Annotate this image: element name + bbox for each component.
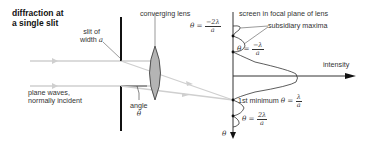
theta-arrow-icon [230,132,236,139]
minimum-dot-neg1 [232,51,235,54]
screen-label: screen in focal plane of lens [239,10,328,18]
slit-label: slit of width a [80,28,103,44]
fraction: −2λa [205,19,221,34]
theta-eq: θ = [242,114,257,123]
plane-waves-label: plane waves, normally incident [28,89,82,105]
fraction: λa [296,94,302,109]
denominator: a [252,50,264,57]
title-line-1: diffraction at [12,8,63,18]
ray-arrow-icon [52,58,58,64]
theta-eq: θ = [281,96,296,105]
angle-label: angle θ [130,102,148,118]
subsidiary-pointer [240,26,268,28]
eq-plus-2-lambda: θ = 2λa [242,112,267,127]
converging-lens [150,46,161,100]
slit-label-prefix: width [80,35,99,44]
fraction: 2λa [257,112,267,127]
intensity-axis [233,73,356,79]
first-minimum-label: 1st minimum θ = λa [238,94,302,109]
angle-symbol: θ [130,110,148,118]
diffracted-rays [121,61,233,100]
eq-minus-2-lambda: θ = −2λa [190,19,221,34]
theta-axis-label: θ [222,130,226,138]
theta-eq: θ = [190,21,205,30]
first-minimum-text: 1st minimum [238,96,281,105]
minimum-dot-neg2 [232,35,235,38]
diagram-title: diffraction at a single slit [12,8,63,28]
fraction: −λa [252,42,264,57]
plane-waves-line2: normally incident [28,97,82,105]
denominator: a [296,102,302,109]
denominator: a [205,27,221,34]
subsidiary-maxima-label: subsidiary maxima [268,22,328,30]
incident-rays [30,58,152,89]
intensity-arrow-icon [345,73,356,79]
minimum-dot-pos1 [232,99,235,102]
intensity-label: intensity [323,61,349,69]
denominator: a [257,120,267,127]
title-line-2: a single slit [12,18,63,28]
slit-width-symbol: a [99,35,103,44]
minimum-dot-pos2 [232,115,235,118]
converging-lens-label: converging lens [140,10,190,18]
theta-eq: θ = [237,44,252,53]
eq-minus-lambda: θ = −λa [237,42,264,57]
slit-pointer [103,42,120,58]
